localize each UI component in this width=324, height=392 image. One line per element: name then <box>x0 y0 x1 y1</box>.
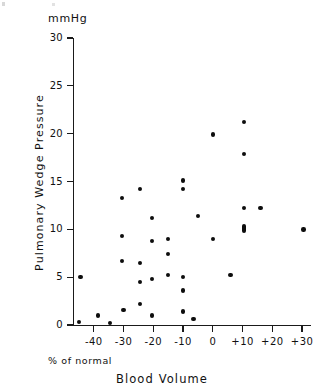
x-tick-mark <box>123 326 124 332</box>
x-tick-mark <box>93 326 94 332</box>
data-point <box>120 234 124 238</box>
data-point <box>166 273 170 277</box>
data-point <box>138 261 142 265</box>
scatter-plot-figure: mmHg Pulmonary Wedge Pressure 0510152025… <box>0 0 324 392</box>
data-point <box>181 275 185 279</box>
data-point <box>120 259 124 263</box>
y-tick-label: 5 <box>41 271 63 282</box>
data-point <box>150 216 154 220</box>
y-tick-label: 0 <box>41 319 63 330</box>
data-point <box>138 187 142 191</box>
y-tick-label: 25 <box>41 80 63 91</box>
data-point <box>150 239 154 243</box>
data-point <box>78 275 82 279</box>
y-tick-mark <box>67 324 73 325</box>
data-point <box>181 309 185 313</box>
x-tick-mark <box>301 326 302 332</box>
x-tick-mark <box>242 326 243 332</box>
y-axis-line <box>73 38 74 326</box>
data-point <box>242 206 246 210</box>
y-axis-unit-label: mmHg <box>48 12 88 25</box>
data-point <box>211 237 215 241</box>
scan-artifact-secondary <box>52 3 55 6</box>
data-point <box>242 120 246 124</box>
y-tick-mark <box>67 85 73 86</box>
data-point <box>191 317 195 321</box>
y-tick-mark <box>67 133 73 134</box>
x-axis-title: Blood Volume <box>0 372 324 386</box>
y-tick-mark <box>67 277 73 278</box>
data-point <box>150 313 154 317</box>
y-tick-label: 30 <box>41 32 63 43</box>
x-tick-mark <box>153 326 154 332</box>
x-tick-mark <box>272 326 273 332</box>
x-tick-mark <box>182 326 183 332</box>
data-point <box>301 227 305 231</box>
y-tick-label: 15 <box>41 176 63 187</box>
data-point <box>258 206 262 210</box>
x-axis-note: % of normal <box>48 355 112 366</box>
data-point <box>138 302 142 306</box>
data-point <box>211 132 215 136</box>
y-tick-label: 10 <box>41 223 63 234</box>
x-tick-label: +30 <box>284 336 320 347</box>
x-tick-mark <box>212 326 213 332</box>
data-point <box>181 187 185 191</box>
scan-artifact <box>2 2 5 6</box>
y-tick-mark <box>67 181 73 182</box>
data-point <box>138 280 142 284</box>
x-axis-line <box>73 325 311 326</box>
y-tick-mark <box>67 37 73 38</box>
data-point <box>77 320 81 324</box>
data-point <box>242 224 246 233</box>
y-tick-mark <box>67 229 73 230</box>
y-tick-label: 20 <box>41 128 63 139</box>
data-point <box>150 277 154 281</box>
data-point <box>121 308 125 312</box>
data-point <box>228 273 232 277</box>
data-point <box>96 313 100 317</box>
data-point <box>166 237 170 241</box>
data-point <box>120 196 124 200</box>
data-point <box>242 152 246 156</box>
data-point <box>166 252 170 256</box>
data-point <box>181 178 185 182</box>
data-point <box>181 288 185 292</box>
data-point <box>196 214 200 218</box>
